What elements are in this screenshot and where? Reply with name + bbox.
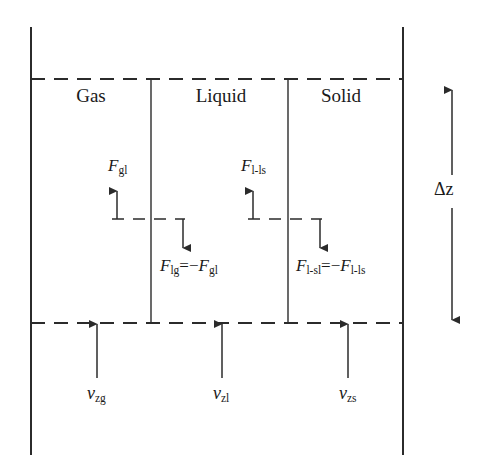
velocity-label-gas: νzg (87, 384, 106, 405)
force-equation-lg: Flg=−Fgl (160, 257, 218, 277)
diagram-canvas (0, 0, 495, 476)
phase-label-gas: Gas (60, 86, 122, 105)
force-subscript-gl: gl (118, 164, 127, 176)
phase-label-solid: Solid (310, 86, 372, 105)
force-rhs-subscript-l-sl: l-ls (351, 264, 366, 276)
phase-label-liquid: Liquid (186, 86, 256, 105)
force-symbol-l-ls: F (241, 156, 251, 175)
phase-force-diagram: Gas Liquid Solid Fgl Fl-ls Flg=−Fgl Fl-s… (0, 0, 495, 476)
velocity-symbol-gas: ν (87, 383, 95, 403)
force-equation-l-sl: Fl-sl=−Fl-ls (296, 257, 365, 277)
velocity-label-liquid: νzl (213, 384, 229, 405)
velocity-symbol-solid: ν (339, 383, 347, 403)
force-rhs-symbol-lg: F (199, 256, 209, 275)
force-equals-l-sl: =− (321, 256, 340, 275)
delta-z-label: Δz (434, 179, 454, 200)
force-symbol-l-sl: F (296, 256, 306, 275)
velocity-subscript-liquid: zl (221, 392, 229, 404)
force-subscript-l-ls: l-ls (251, 164, 266, 176)
velocity-subscript-gas: zg (95, 392, 106, 404)
force-subscript-lg: lg (170, 264, 179, 276)
force-label-l-ls: Fl-ls (241, 157, 266, 177)
force-equals-lg: =− (179, 256, 198, 275)
velocity-label-solid: νzs (339, 384, 357, 405)
force-symbol-lg: F (160, 256, 170, 275)
velocity-subscript-solid: zs (347, 392, 357, 404)
force-rhs-symbol-l-sl: F (340, 256, 350, 275)
force-symbol-gl: F (108, 156, 118, 175)
force-label-gl: Fgl (108, 157, 127, 177)
velocity-symbol-liquid: ν (213, 383, 221, 403)
force-subscript-l-sl: l-sl (306, 264, 321, 276)
force-rhs-subscript-lg: gl (209, 264, 218, 276)
